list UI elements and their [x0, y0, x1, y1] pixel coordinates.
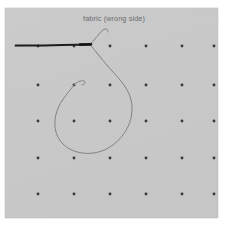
- fabric-grid-dot: [145, 84, 148, 87]
- fabric-grid-dot: [73, 193, 76, 196]
- fabric-grid-dot: [181, 84, 184, 87]
- fabric-grid-dot: [181, 120, 184, 123]
- fabric-grid-dot: [73, 120, 76, 123]
- fabric-grid-dot: [213, 157, 216, 160]
- fabric-shading: [5, 8, 218, 218]
- fabric-grid-dot: [145, 193, 148, 196]
- illustration-canvas: fabric (wrong side): [0, 0, 229, 231]
- fabric-grid-dot: [37, 120, 40, 123]
- fabric-grid-dot: [181, 157, 184, 160]
- fabric-caption-label: fabric (wrong side): [83, 14, 145, 23]
- fabric-grid-dot: [37, 84, 40, 87]
- fabric-grid-dot: [213, 45, 216, 48]
- fabric-grid-dot: [37, 157, 40, 160]
- fabric-grid-dot: [109, 120, 112, 123]
- fabric-grid-dot: [213, 84, 216, 87]
- fabric-grid-dot: [213, 120, 216, 123]
- fabric-grid-dot: [109, 193, 112, 196]
- fabric-illustration: fabric (wrong side): [0, 0, 229, 231]
- fabric-grid-dot: [109, 157, 112, 160]
- fabric-grid-dot: [181, 45, 184, 48]
- fabric-grid-dot: [145, 45, 148, 48]
- fabric-grid-dot: [145, 157, 148, 160]
- fabric-grid-dot: [73, 157, 76, 160]
- fabric-grid-dot: [37, 193, 40, 196]
- fabric-grid-dot: [181, 193, 184, 196]
- fabric-grid-dot: [213, 193, 216, 196]
- fabric-grid-dot: [145, 120, 148, 123]
- fabric-grid-dot: [109, 84, 112, 87]
- fabric-grid-dot: [109, 45, 112, 48]
